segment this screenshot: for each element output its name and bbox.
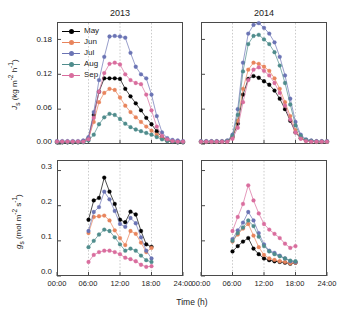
- datapoint-gs-2013-sep-0: [87, 260, 91, 264]
- datapoint-gs-2013-sep-2: [97, 250, 101, 254]
- datapoint-gs-2013-aug-10: [139, 254, 143, 258]
- datapoint-gs-2013-may-5: [113, 202, 117, 206]
- datapoint-gs-2014-jun-7: [267, 257, 271, 261]
- datapoint-gs-2014-aug-7: [267, 249, 271, 253]
- datapoint-js-2014-sep-1: [204, 140, 208, 144]
- datapoint-js-2014-aug-13: [267, 42, 271, 46]
- datapoint-gs-2013-may-3: [102, 176, 106, 180]
- datapoint-gs-2014-sep-0: [231, 229, 235, 233]
- datapoint-gs-2013-jun-12: [150, 246, 154, 250]
- datapoint-js-2013-jun-11: [113, 88, 117, 92]
- figure-container: 2013 2014 Js (kg m-2 h-1) gs (mol m-2 s-…: [0, 0, 360, 320]
- datapoint-gs-2014-may-4: [252, 247, 256, 251]
- datapoint-gs-2014-aug-12: [294, 259, 298, 263]
- datapoint-js-2014-sep-3: [215, 140, 219, 144]
- datapoint-gs-2014-aug-2: [241, 226, 245, 230]
- datapoint-gs-2013-may-7: [123, 220, 127, 224]
- datapoint-gs-2014-aug-10: [283, 257, 287, 261]
- datapoint-js-2013-sep-12: [118, 63, 122, 67]
- datapoint-js-2013-may-13: [123, 87, 127, 91]
- datapoint-js-2014-sep-9: [246, 78, 250, 82]
- datapoint-gs-2013-may-9: [134, 213, 138, 217]
- datapoint-js-2013-sep-2: [66, 140, 70, 144]
- datapoint-js-2014-sep-24: [325, 140, 329, 144]
- datapoint-js-2013-jun-17: [144, 125, 148, 129]
- datapoint-js-2014-jul-15: [278, 55, 282, 59]
- datapoint-js-2014-jul-10: [252, 23, 256, 27]
- datapoint-gs-2013-sep-11: [144, 265, 148, 269]
- datapoint-gs-2013-aug-11: [144, 258, 148, 262]
- datapoint-js-2013-jul-13: [123, 36, 127, 40]
- datapoint-js-2014-aug-12: [262, 38, 266, 42]
- datapoint-js-2013-aug-13: [123, 122, 127, 126]
- datapoint-js-2013-jun-8: [97, 100, 101, 104]
- datapoint-gs-2013-sep-6: [118, 252, 122, 256]
- datapoint-js-2013-sep-13: [123, 72, 127, 76]
- datapoint-js-2014-sep-19: [299, 137, 303, 141]
- datapoint-js-2014-jul-16: [283, 74, 287, 78]
- datapoint-gs-2013-sep-7: [123, 256, 127, 260]
- datapoint-gs-2014-sep-3: [246, 183, 250, 187]
- datapoint-gs-2014-aug-1: [236, 231, 240, 235]
- datapoint-js-2014-sep-8: [241, 100, 245, 104]
- datapoint-js-2013-may-17: [144, 116, 148, 120]
- datapoint-js-2014-jul-12: [262, 26, 266, 30]
- datapoint-gs-2013-aug-12: [150, 260, 154, 264]
- datapoint-gs-2014-jun-10: [283, 260, 287, 264]
- datapoint-js-2013-aug-7: [92, 133, 96, 137]
- datapoint-gs-2014-may-0: [231, 249, 235, 253]
- datapoint-js-2013-sep-22: [171, 139, 175, 143]
- datapoint-js-2013-aug-8: [97, 122, 101, 126]
- datapoint-gs-2013-jun-9: [134, 232, 138, 236]
- datapoint-js-2013-sep-24: [181, 140, 185, 144]
- datapoint-gs-2013-sep-5: [113, 250, 117, 254]
- datapoint-gs-2013-may-8: [129, 210, 133, 214]
- datapoint-gs-2014-aug-0: [231, 239, 235, 243]
- datapoint-gs-2013-jul-4: [108, 197, 112, 201]
- datapoint-js-2014-sep-10: [252, 68, 256, 72]
- datapoint-js-2013-jul-12: [118, 35, 122, 39]
- datapoint-js-2013-jun-9: [102, 91, 106, 95]
- datapoint-gs-2013-may-2: [97, 196, 101, 200]
- datapoint-js-2014-aug-16: [283, 81, 287, 85]
- datapoint-gs-2014-may-3: [246, 236, 250, 240]
- datapoint-gs-2013-aug-4: [108, 229, 112, 233]
- datapoint-js-2013-jun-10: [108, 87, 112, 91]
- datapoint-gs-2013-sep-1: [92, 253, 96, 257]
- datapoint-js-2013-aug-17: [144, 131, 148, 135]
- datapoint-gs-2013-jul-2: [97, 205, 101, 209]
- datapoint-js-2013-may-12: [118, 77, 122, 81]
- datapoint-gs-2013-aug-5: [113, 235, 117, 239]
- datapoint-js-2014-sep-14: [273, 81, 277, 85]
- series-group-gs-2013: [87, 176, 154, 269]
- datapoint-gs-2014-jun-9: [278, 259, 282, 263]
- datapoint-gs-2013-jul-3: [102, 190, 106, 194]
- datapoint-js-2014-may-13: [267, 83, 271, 87]
- datapoint-js-2013-jul-17: [144, 76, 148, 80]
- datapoint-js-2013-sep-21: [165, 137, 169, 141]
- datapoint-js-2014-aug-18: [294, 124, 298, 128]
- datapoint-gs-2014-sep-4: [252, 199, 256, 203]
- datapoint-js-2014-aug-7: [236, 113, 240, 117]
- datapoint-js-2014-may-15: [278, 97, 282, 101]
- datapoint-js-2013-sep-15: [134, 81, 138, 85]
- datapoint-js-2013-aug-16: [139, 129, 143, 133]
- datapoint-js-2014-jul-11: [257, 21, 261, 25]
- datapoint-js-2013-sep-7: [92, 116, 96, 120]
- datapoint-js-2014-sep-22: [315, 140, 319, 144]
- datapoint-gs-2014-sep-11: [288, 246, 292, 250]
- datapoint-js-2013-sep-9: [102, 71, 106, 75]
- datapoint-js-2013-aug-11: [113, 113, 117, 117]
- datapoint-js-2013-jul-8: [97, 78, 101, 82]
- datapoint-gs-2014-may-5: [257, 252, 261, 256]
- datapoint-js-2013-jun-12: [118, 96, 122, 100]
- datapoint-gs-2013-jun-7: [123, 243, 127, 247]
- datapoint-gs-2013-may-0: [87, 218, 91, 222]
- datapoint-js-2013-sep-0: [55, 140, 59, 144]
- datapoint-gs-2013-may-11: [144, 242, 148, 246]
- datapoint-gs-2013-aug-2: [97, 233, 101, 237]
- datapoint-gs-2013-sep-3: [102, 249, 106, 253]
- datapoint-js-2013-aug-20: [160, 137, 164, 141]
- datapoint-js-2013-sep-5: [81, 140, 85, 144]
- datapoint-gs-2014-jul-2: [241, 221, 245, 225]
